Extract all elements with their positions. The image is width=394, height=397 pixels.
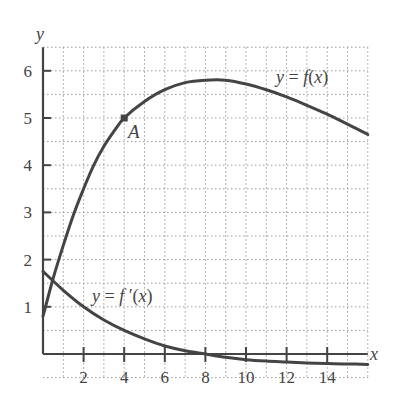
x-tick-label: 2	[79, 368, 88, 387]
x-axis-label: x	[369, 344, 378, 364]
y-tick-label: 5	[24, 109, 33, 128]
x-tick-label: 10	[238, 368, 255, 387]
y-tick-label: 4	[24, 156, 33, 175]
x-tick-label: 8	[201, 368, 210, 387]
y-axis-label: y	[34, 24, 44, 44]
y-tick-label: 2	[24, 251, 33, 270]
x-tick-label: 6	[161, 368, 170, 387]
point-a-marker	[121, 115, 128, 122]
y-tick-label: 1	[24, 298, 33, 317]
point-a-label: A	[126, 121, 140, 142]
x-tick-label: 14	[319, 368, 337, 387]
y-tick-label: 6	[24, 62, 33, 81]
fprime-curve-label: y = f ′(x)	[90, 286, 153, 307]
x-tick-label: 4	[120, 368, 129, 387]
x-tick-label: 12	[278, 368, 295, 387]
f-curve-label: y = f(x)	[274, 67, 328, 88]
y-tick-labels: 123456	[24, 62, 33, 317]
x-tick-labels: 2468101214	[79, 368, 336, 387]
y-tick-label: 3	[24, 203, 33, 222]
grid	[43, 47, 368, 377]
chart: 2468101214 123456 y x A y = f(x) y = f ′…	[0, 0, 394, 397]
